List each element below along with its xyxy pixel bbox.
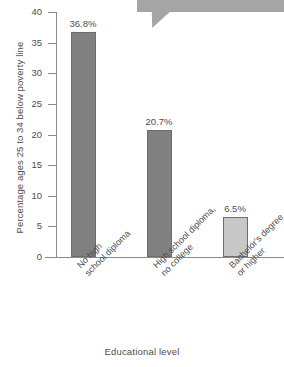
y-tick-label: 0 — [10, 252, 42, 262]
y-tick-label: 30 — [10, 69, 42, 79]
bars-layer: 36.8%20.7%6.5% — [56, 12, 284, 257]
y-tick-mark — [48, 135, 56, 136]
y-tick-mark — [48, 43, 56, 44]
x-axis-title: Educational level — [0, 346, 284, 357]
y-tick-label: 15 — [10, 160, 42, 170]
y-tick-mark — [48, 73, 56, 74]
y-tick-label: 40 — [10, 7, 42, 17]
y-tick-label: 25 — [10, 99, 42, 109]
bar — [71, 32, 96, 257]
y-tick-mark — [48, 196, 56, 197]
bar-chart: Percentage ages 25 to 34 below poverty l… — [0, 0, 284, 367]
y-tick-mark — [48, 165, 56, 166]
y-tick-mark — [48, 257, 56, 258]
y-tick-mark — [48, 104, 56, 105]
y-tick-label: 20 — [10, 130, 42, 140]
y-tick-mark — [48, 12, 56, 13]
y-tick-label: 5 — [10, 222, 42, 232]
y-tick-label: 10 — [10, 191, 42, 201]
bar — [147, 130, 172, 257]
bar-value-label: 36.8% — [59, 19, 107, 29]
y-tick-mark — [48, 226, 56, 227]
bar-value-label: 20.7% — [135, 117, 183, 127]
y-tick-label: 35 — [10, 38, 42, 48]
